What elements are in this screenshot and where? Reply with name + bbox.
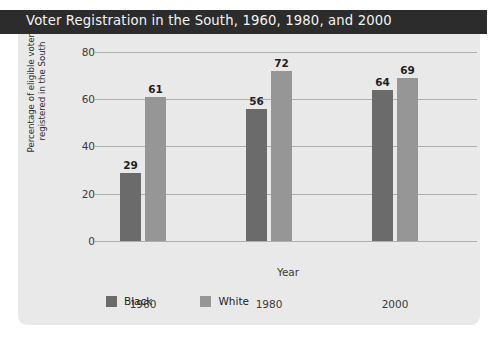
x-tick-label-2000: 2000 [365, 298, 425, 310]
legend-item-white[interactable]: White [200, 295, 249, 307]
bar-value-black-1980: 56 [239, 95, 274, 107]
bar-black-2000[interactable] [372, 90, 393, 241]
y-tick-label: 0 [61, 235, 95, 247]
bar-black-1980[interactable] [246, 109, 267, 241]
y-axis-title-line1: Percentage of eligible voters [26, 30, 36, 153]
x-axis-title: Year [99, 266, 477, 278]
bar-white-1980[interactable] [271, 71, 292, 241]
y-axis-title-line2: registered in the South [37, 42, 47, 141]
gridline [99, 52, 477, 53]
legend-label-black: Black [124, 295, 152, 307]
bar-white-2000[interactable] [397, 78, 418, 241]
bar-value-black-1960: 29 [113, 159, 148, 171]
bar-value-white-1960: 61 [138, 83, 173, 95]
gridline [99, 241, 477, 242]
bar-black-1960[interactable] [120, 173, 141, 242]
bar-value-white-1980: 72 [264, 57, 299, 69]
plot-area: 29 61 56 72 64 69 1960 1980 2000 [99, 52, 477, 241]
chart-title-band: Voter Registration in the South, 1960, 1… [0, 10, 487, 34]
bar-value-white-2000: 69 [390, 64, 425, 76]
legend-swatch-black-icon [106, 296, 117, 307]
bar-white-1960[interactable] [145, 97, 166, 241]
chart-legend: Black White [106, 295, 297, 307]
y-tick-label: 60 [61, 93, 95, 105]
bar-value-black-2000: 64 [365, 76, 400, 88]
y-tick-label: 80 [61, 46, 95, 58]
legend-item-black[interactable]: Black [106, 295, 152, 307]
y-axis-ticks: 80 60 40 20 0 [57, 52, 95, 241]
legend-label-white: White [218, 295, 249, 307]
legend-swatch-white-icon [200, 296, 211, 307]
chart-figure: 80 60 40 20 0 Percentage of eligible vot… [0, 0, 499, 337]
y-tick-label: 20 [61, 188, 95, 200]
chart-title: Voter Registration in the South, 1960, 1… [26, 13, 392, 28]
y-tick-label: 40 [61, 140, 95, 152]
